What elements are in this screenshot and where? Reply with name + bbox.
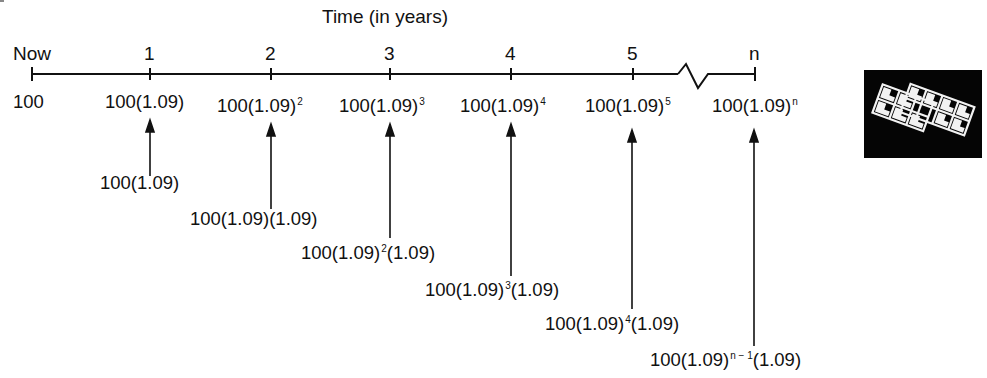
derivation-year-3: 100(1.09)2(1.09) (301, 238, 435, 264)
derivation-year-1: 100(1.09) (100, 172, 179, 194)
arrow-4-head (507, 124, 515, 136)
value-year-1: 100(1.09) (105, 91, 184, 113)
derivation-year-n: 100(1.09)n − 1(1.09) (650, 345, 801, 371)
value-year-n: 100(1.09)n (712, 91, 798, 117)
arrow-1-head (146, 120, 154, 132)
derivation-year-4: 100(1.09)3(1.09) (425, 275, 559, 301)
value-year-5: 100(1.09)5 (585, 91, 671, 117)
arrow-n-head (750, 130, 758, 142)
calculator-grid-icon (864, 70, 982, 158)
value-year-3: 100(1.09)3 (339, 91, 425, 117)
derivation-year-2: 100(1.09)(1.09) (190, 208, 318, 230)
arrow-5-head (628, 130, 636, 142)
axis-break-zigzag (678, 64, 755, 88)
arrow-2-head (267, 124, 275, 136)
arrow-3-head (386, 124, 394, 136)
value-now: 100 (13, 91, 44, 113)
value-year-4: 100(1.09)4 (460, 91, 546, 117)
derivation-year-5: 100(1.09)4(1.09) (545, 309, 679, 335)
value-year-2: 100(1.09)2 (217, 91, 303, 117)
